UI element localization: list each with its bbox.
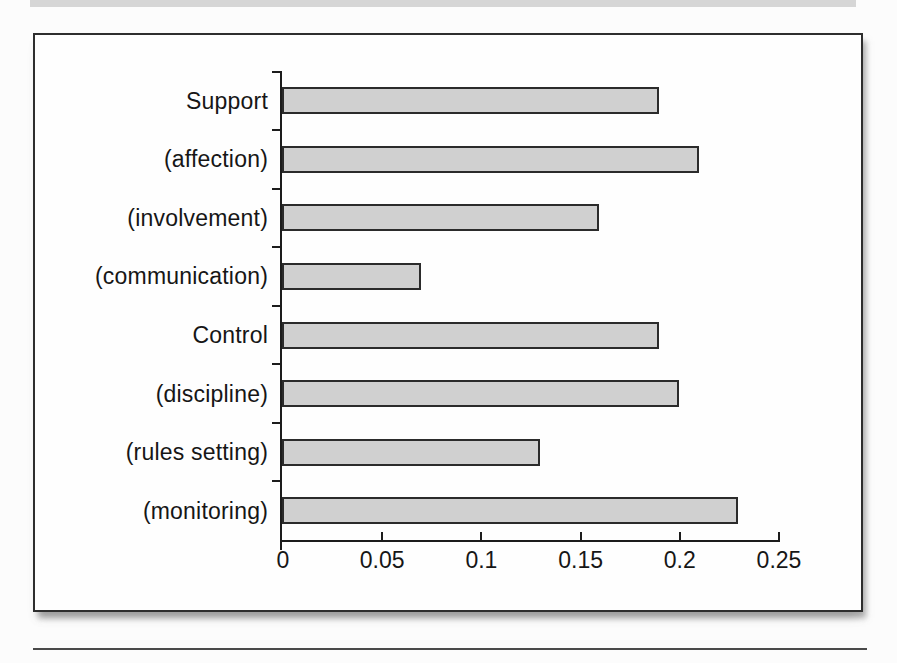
y-axis-line xyxy=(280,71,282,550)
category-label: (communication) xyxy=(35,261,268,291)
y-axis-tick xyxy=(272,480,280,482)
bar-chart: Support(affection)(involvement)(communic… xyxy=(35,35,861,610)
bar xyxy=(282,263,421,290)
x-tick-label: 0 xyxy=(277,547,290,574)
x-axis-tick xyxy=(580,532,582,540)
x-axis-tick xyxy=(381,532,383,540)
category-label: (affection) xyxy=(35,144,268,174)
y-axis-tick xyxy=(272,129,280,131)
page-bottom-rule xyxy=(33,648,867,650)
y-axis-tick xyxy=(272,422,280,424)
x-tick-label: 0.05 xyxy=(360,547,405,574)
category-label: (discipline) xyxy=(35,379,268,409)
bar xyxy=(282,380,679,407)
x-axis-tick xyxy=(679,532,681,540)
x-tick-label: 0.1 xyxy=(465,547,497,574)
y-axis-tick xyxy=(272,246,280,248)
category-label: (involvement) xyxy=(35,203,268,233)
page-top-scan-band xyxy=(30,0,856,7)
bar xyxy=(282,146,699,173)
category-label: (rules setting) xyxy=(35,437,268,467)
category-label: Support xyxy=(35,86,268,116)
bar xyxy=(282,322,659,349)
x-axis-tick xyxy=(778,532,780,540)
y-axis-tick xyxy=(272,305,280,307)
x-axis-tick xyxy=(480,532,482,540)
x-tick-label: 0.2 xyxy=(664,547,696,574)
x-tick-label: 0.25 xyxy=(757,547,802,574)
y-axis-tick xyxy=(272,363,280,365)
bar xyxy=(282,439,540,466)
bar xyxy=(282,87,659,114)
figure-frame: Support(affection)(involvement)(communic… xyxy=(33,33,863,612)
x-tick-label: 0.15 xyxy=(558,547,603,574)
bar xyxy=(282,497,738,524)
y-axis-tick xyxy=(272,188,280,190)
category-label: (monitoring) xyxy=(35,496,268,526)
scanned-page: Support(affection)(involvement)(communic… xyxy=(0,0,897,663)
y-axis-tick xyxy=(272,71,280,73)
x-axis-line xyxy=(280,540,780,542)
category-label: Control xyxy=(35,320,268,350)
bar xyxy=(282,204,599,231)
